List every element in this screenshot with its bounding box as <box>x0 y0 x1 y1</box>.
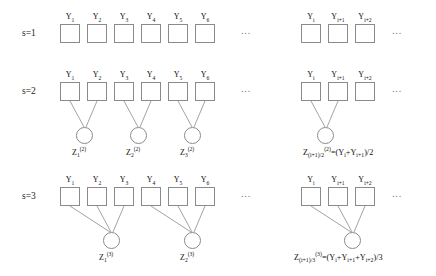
y-label-r1-i2: Yi+2 <box>355 13 375 23</box>
y-label-r3-3: Y3 <box>114 176 134 186</box>
y-box-r1-1 <box>60 24 80 43</box>
y-label-r3-i1: Yi+1 <box>328 176 348 186</box>
y-box-r3-5 <box>168 187 188 206</box>
y-box-r1-i <box>301 24 321 43</box>
z-circle-r2-right <box>317 127 334 144</box>
y-box-r2-5 <box>168 82 188 101</box>
y-label-r1-2: Y2 <box>87 13 107 23</box>
ellipsis-r2-mid: ∙∙∙ <box>241 86 251 96</box>
y-box-r1-4 <box>141 24 161 43</box>
z-circle-r2-2 <box>130 127 147 144</box>
y-box-r3-6 <box>195 187 215 206</box>
ellipsis-r3-end: ∙∙∙ <box>392 191 402 201</box>
y-label-r3-5: Y5 <box>168 176 188 186</box>
diagram-canvas: s=1 Y1 Y2 Y3 Y4 Y5 Y6 ∙∙∙ Yi Yi+1 Yi+2 ∙… <box>0 0 436 276</box>
y-box-r2-i <box>301 82 321 101</box>
y-label-r2-i2: Yi+2 <box>355 71 375 81</box>
y-box-r2-i2 <box>355 82 375 101</box>
z-label-r2-3: Z3(2) <box>180 147 194 159</box>
y-label-r2-5: Y5 <box>168 71 188 81</box>
y-box-r2-1 <box>60 82 80 101</box>
y-label-r3-i2: Yi+2 <box>355 176 375 186</box>
y-label-r1-3: Y3 <box>114 13 134 23</box>
z-circle-r3-2 <box>184 232 201 249</box>
y-box-r1-3 <box>114 24 134 43</box>
y-label-r2-i1: Yi+1 <box>328 71 348 81</box>
z-circle-r2-1 <box>76 127 93 144</box>
z-label-r2-2: Z2(2) <box>126 147 140 159</box>
y-box-r3-i1 <box>328 187 348 206</box>
y-label-r1-6: Y6 <box>195 13 215 23</box>
y-box-r3-3 <box>114 187 134 206</box>
z-label-r2-1: Z1(2) <box>72 147 86 159</box>
scale-label-s1: s=1 <box>22 28 36 38</box>
y-box-r2-i1 <box>328 82 348 101</box>
y-box-r2-6 <box>195 82 215 101</box>
y-label-r2-6: Y6 <box>195 71 215 81</box>
y-box-r3-1 <box>60 187 80 206</box>
scale-label-s2: s=2 <box>22 86 36 96</box>
y-box-r1-2 <box>87 24 107 43</box>
y-box-r2-2 <box>87 82 107 101</box>
y-label-r2-3: Y3 <box>114 71 134 81</box>
y-label-r3-i: Yi <box>301 176 321 186</box>
y-label-r2-i: Yi <box>301 71 321 81</box>
z-circle-r2-3 <box>184 127 201 144</box>
y-box-r1-6 <box>195 24 215 43</box>
y-box-r3-i2 <box>355 187 375 206</box>
formula-row2: Z(i+1)/2(2)=(Yi+Yi+1)/2 <box>303 147 373 159</box>
ellipsis-r2-end: ∙∙∙ <box>392 86 402 96</box>
y-box-r3-4 <box>141 187 161 206</box>
z-circle-r3-right <box>344 232 361 249</box>
scale-label-s3: s=3 <box>22 191 36 201</box>
z-label-r3-2: Z2(3) <box>180 252 194 264</box>
ellipsis-r1-mid: ∙∙∙ <box>241 28 251 38</box>
y-box-r1-i2 <box>355 24 375 43</box>
ellipsis-r3-mid: ∙∙∙ <box>241 191 251 201</box>
y-box-r1-5 <box>168 24 188 43</box>
y-label-r3-2: Y2 <box>87 176 107 186</box>
y-label-r1-i: Yi <box>301 13 321 23</box>
z-label-r3-1: Z1(3) <box>99 252 113 264</box>
ellipsis-r1-end: ∙∙∙ <box>392 28 402 38</box>
y-label-r3-4: Y4 <box>141 176 161 186</box>
y-label-r1-5: Y5 <box>168 13 188 23</box>
y-label-r3-6: Y6 <box>195 176 215 186</box>
y-label-r1-4: Y4 <box>141 13 161 23</box>
y-box-r3-2 <box>87 187 107 206</box>
y-box-r2-4 <box>141 82 161 101</box>
z-circle-r3-1 <box>103 232 120 249</box>
y-label-r2-2: Y2 <box>87 71 107 81</box>
y-box-r3-i <box>301 187 321 206</box>
y-label-r2-1: Y1 <box>60 71 80 81</box>
formula-row3: Z(i+1)/3(3)=(Yi+Yi+1+Yi+2)/3 <box>294 252 383 264</box>
y-label-r1-i1: Yi+1 <box>328 13 348 23</box>
y-box-r2-3 <box>114 82 134 101</box>
y-box-r1-i1 <box>328 24 348 43</box>
y-label-r1-1: Y1 <box>60 13 80 23</box>
y-label-r3-1: Y1 <box>60 176 80 186</box>
y-label-r2-4: Y4 <box>141 71 161 81</box>
